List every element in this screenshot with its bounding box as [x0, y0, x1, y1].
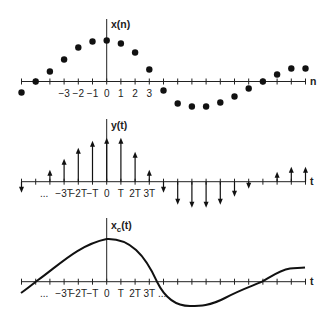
sample-dot [75, 44, 81, 50]
tick-label: −2T [70, 188, 88, 199]
arrow-head-icon [189, 202, 194, 208]
sample-dot [302, 65, 308, 71]
sample-dot [175, 100, 181, 106]
tick-label: 0 [104, 288, 110, 299]
arrow-head-icon [147, 170, 152, 176]
sample-dot [132, 49, 138, 55]
t-tick-labels-continuous: ...−3T−2T−T0T2T3T... [40, 288, 166, 299]
sample-dot [288, 65, 294, 71]
sample-dot [246, 85, 252, 91]
sample-dot [260, 78, 266, 84]
t-label-continuous: t [310, 275, 314, 287]
tick-label: −T [87, 188, 99, 199]
tick-label: 0 [104, 188, 110, 199]
arrow-head-icon [232, 191, 237, 197]
panel-continuous-signal: ...−3T−2T−T0T2T3T... xc(t) t [21, 218, 314, 306]
arrow-head-icon [275, 172, 280, 178]
sampling-diagram: −3−2−10123 x(n) n ...−3T−2T−T0T2T3T y(t)… [0, 0, 335, 323]
tick-label: 0 [104, 88, 110, 99]
x-n-label: x(n) [111, 18, 130, 30]
sample-dot [146, 66, 152, 72]
sample-dot [104, 37, 110, 43]
arrow-head-icon [289, 167, 294, 173]
sample-dot [189, 103, 195, 109]
tick-label: −2 [73, 88, 85, 99]
tick-label: −T [87, 288, 99, 299]
sample-dot [160, 87, 166, 93]
tick-label: 3 [147, 88, 153, 99]
arrow-head-icon [218, 199, 223, 205]
tick-label: −2T [70, 288, 88, 299]
arrow-head-icon [133, 152, 138, 158]
arrow-head-icon [175, 199, 180, 205]
sample-dot [18, 89, 24, 95]
tick-label: ... [40, 188, 48, 199]
sample-dot [231, 93, 237, 99]
panel-discrete-signal: −3−2−10123 x(n) n [18, 18, 316, 110]
sample-dot [274, 71, 280, 77]
n-label: n [310, 75, 316, 87]
xc-t-label: xc(t) [111, 219, 132, 234]
tick-label: −1 [87, 88, 99, 99]
sample-dot [203, 103, 209, 109]
arrow-head-icon [76, 148, 81, 154]
tick-label: 1 [118, 88, 124, 99]
arrow-head-icon [118, 138, 123, 144]
tick-label: ... [40, 288, 48, 299]
tick-label: 2 [132, 88, 138, 99]
tick-label: −3 [58, 88, 70, 99]
arrow-head-icon [303, 167, 308, 173]
arrow-head-icon [62, 159, 67, 165]
arrow-head-icon [104, 138, 109, 144]
sample-dot [47, 68, 53, 74]
sample-dot [61, 56, 67, 62]
arrow-head-icon [47, 170, 52, 176]
y-t-label: y(t) [111, 119, 127, 131]
n-tick-labels: −3−2−10123 [58, 88, 152, 99]
sample-dot [33, 78, 39, 84]
tick-label: T [118, 188, 124, 199]
tick-label: 2T [129, 288, 141, 299]
tick-label: ... [158, 288, 166, 299]
sample-dot [118, 40, 124, 46]
arrow-head-icon [246, 183, 251, 189]
arrow-head-icon [19, 187, 24, 193]
t-tick-labels: ...−3T−2T−T0T2T3T [40, 188, 155, 199]
tick-label: T [118, 288, 124, 299]
t-label-impulse: t [310, 175, 314, 187]
arrow-head-icon [161, 187, 166, 193]
sample-dot [217, 99, 223, 105]
tick-label: 3T [143, 288, 155, 299]
tick-label: 2T [129, 188, 141, 199]
panel-impulse-train: ...−3T−2T−T0T2T3T y(t) t [19, 119, 314, 208]
tick-label: 3T [143, 188, 155, 199]
arrow-head-icon [90, 141, 95, 147]
arrow-head-icon [204, 202, 209, 208]
sample-dot [89, 38, 95, 44]
